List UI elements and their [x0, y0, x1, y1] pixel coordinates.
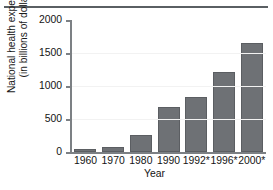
x-axis-tick-label: 1992*: [182, 156, 210, 166]
gridline: [72, 119, 266, 120]
y-axis-tick: [66, 53, 71, 55]
bar: [213, 72, 235, 152]
y-axis-title-line-2: (in billions of dollars): [18, 0, 30, 77]
y-axis-tick-label: 1500: [39, 48, 62, 58]
y-axis-tick-label: 0: [56, 147, 62, 157]
y-axis-tick: [66, 119, 71, 121]
x-axis-tick-label: 2000*: [238, 156, 266, 166]
bar: [130, 135, 152, 152]
x-axis-tick-label: 1980: [127, 156, 155, 166]
y-axis-title-line-1: National health expenditure: [6, 0, 18, 93]
x-axis-tick-label: 1996*: [210, 156, 238, 166]
x-axis-tick-label: 1970: [99, 156, 127, 166]
y-axis-tick: [66, 152, 71, 154]
bar: [74, 149, 96, 152]
gridline: [72, 86, 266, 87]
x-axis-title-text: Year: [144, 168, 165, 179]
bar: [185, 97, 207, 152]
gridline: [72, 53, 266, 54]
bar: [241, 43, 263, 152]
y-axis-tick-label: 500: [45, 114, 62, 124]
bar: [158, 107, 180, 152]
x-axis-tick-label: 1990: [155, 156, 183, 166]
x-axis-line: [66, 152, 266, 154]
plot-area: 0500100015002000 19601970198019901992*19…: [70, 20, 266, 152]
chart-figure: National health expenditure (in billions…: [0, 0, 273, 190]
x-axis-title: Year: [0, 168, 273, 179]
top-divider-rule: [4, 6, 268, 8]
x-axis-tick-label: 1960: [72, 156, 100, 166]
y-axis-tick-label: 1000: [39, 81, 62, 91]
y-axis-tick-label: 2000: [39, 15, 62, 25]
y-axis-tick: [66, 86, 71, 88]
y-axis-title: National health expenditure (in billions…: [1, 0, 35, 101]
bar: [102, 147, 124, 152]
y-axis-tick: [66, 20, 71, 22]
